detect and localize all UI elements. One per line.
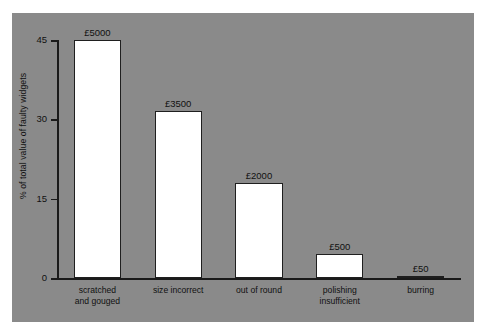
bar-rect[interactable] xyxy=(316,254,363,278)
y-tick-mark xyxy=(51,119,58,121)
bar-polishing-insufficient[interactable]: £500 xyxy=(316,254,363,278)
x-axis-line xyxy=(57,278,461,280)
x-axis-label-burring: burring xyxy=(380,285,461,296)
bar-value-label: £50 xyxy=(413,263,429,275)
bar-rect[interactable] xyxy=(74,40,121,278)
x-axis-label-polishing-insufficient: polishing insufficient xyxy=(299,285,380,306)
plot-area: % of total value of faulty widgets 45 30… xyxy=(12,13,474,322)
bar-value-label: £3500 xyxy=(165,98,191,110)
bar-scratched-and-gouged[interactable]: £5000 xyxy=(74,40,121,278)
y-tick-mark xyxy=(51,40,58,42)
y-tick-label: 15 xyxy=(36,192,47,205)
bar-value-label: £5000 xyxy=(84,27,110,39)
screenshot-root: % of total value of faulty widgets 45 30… xyxy=(0,0,487,336)
bar-size-incorrect[interactable]: £3500 xyxy=(155,111,202,278)
y-tick-label: 0 xyxy=(42,271,47,284)
y-tick-45: 45 xyxy=(51,40,58,42)
chart-panel: % of total value of faulty widgets 45 30… xyxy=(12,13,474,322)
y-tick-label: 45 xyxy=(36,33,47,46)
y-tick-mark xyxy=(51,199,58,201)
x-axis-label-size-incorrect: size incorrect xyxy=(138,285,219,296)
y-tick-label: 30 xyxy=(36,112,47,125)
y-tick-30: 30 xyxy=(51,119,58,121)
bar-rect[interactable] xyxy=(235,183,282,278)
bar-out-of-round[interactable]: £2000 xyxy=(235,183,282,278)
bar-value-label: £500 xyxy=(329,241,350,253)
x-axis-label-out-of-round: out of round xyxy=(219,285,300,296)
bar-rect[interactable] xyxy=(155,111,202,278)
y-axis-title: % of total value of faulty widgets xyxy=(18,51,28,221)
x-axis-label-scratched-and-gouged: scratched and gouged xyxy=(57,285,138,306)
y-axis-line xyxy=(57,40,59,279)
y-tick-15: 15 xyxy=(51,199,58,201)
bar-value-label: £2000 xyxy=(246,170,272,182)
